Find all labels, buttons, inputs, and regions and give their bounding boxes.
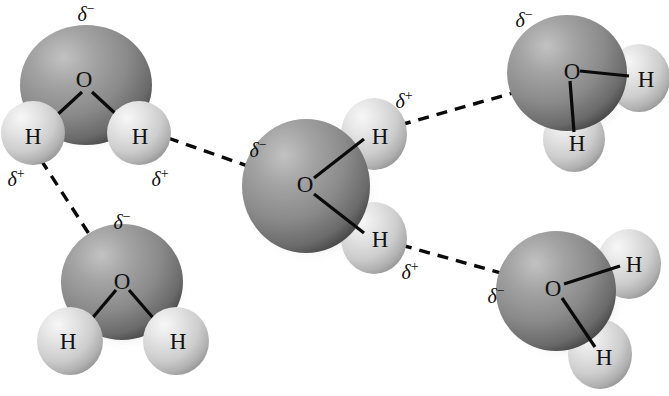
oxygen-atom-label: O	[114, 269, 131, 294]
minus-sign: −	[497, 283, 505, 298]
plus-sign: +	[161, 166, 169, 181]
hydrogen-atom-label-lower: H	[596, 345, 613, 370]
oxygen-atom-label: O	[545, 276, 562, 301]
hydrogen-atom-label-lower: H	[372, 227, 389, 252]
oxygen-atom-label: O	[297, 172, 314, 197]
plus-sign: +	[411, 259, 419, 274]
hydrogen-atom-label-left: H	[60, 329, 77, 354]
minus-sign: −	[259, 137, 267, 152]
hydrogen-atom-label-lower: H	[569, 131, 586, 156]
diagram-canvas: O H H δ− δ+ δ+ O H H δ−	[0, 0, 669, 396]
minus-sign: −	[87, 1, 95, 16]
oxygen-atom-label: O	[564, 59, 581, 84]
hydrogen-atom-label-right: H	[132, 124, 149, 149]
minus-sign: −	[525, 7, 533, 22]
hydrogen-atom-label-left: H	[25, 124, 42, 149]
minus-sign: −	[123, 209, 131, 224]
hydrogen-atom-label-right: H	[170, 329, 187, 354]
oxygen-atom-label: O	[76, 67, 93, 92]
hydrogen-atom-label-upper: H	[372, 124, 389, 149]
plus-sign: +	[17, 166, 25, 181]
hydrogen-atom-label-upper: H	[626, 252, 643, 277]
hydrogen-bonding-diagram: O H H δ− δ+ δ+ O H H δ−	[0, 0, 669, 396]
hydrogen-atom-label-right: H	[638, 67, 655, 92]
plus-sign: +	[405, 88, 413, 103]
